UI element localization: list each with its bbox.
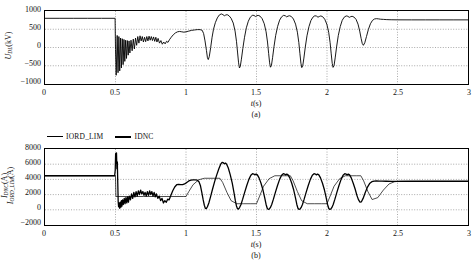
legend-line-idnc <box>115 136 131 138</box>
panel-a-xtick-1: 1 <box>176 88 196 97</box>
panel-a-ytick-1000: 1000 <box>8 5 41 14</box>
panel-a-ytick-m500: −500 <box>8 59 41 68</box>
panel-a-plot-area <box>44 10 469 85</box>
panel-b-ytick-6000: 6000 <box>6 158 41 167</box>
panel-b-xtick-1.5: 1.5 <box>246 229 266 238</box>
legend-entry-idnc: IDNC <box>115 132 153 141</box>
panel-a-x-axis-label: t(s) <box>236 99 276 108</box>
panel-b-plot-area <box>44 148 469 226</box>
legend-entry-iord-lim: IORD_LIM <box>47 132 103 141</box>
panel-a-plot-svg <box>45 11 468 84</box>
panel-a-xtick-0.5: 0.5 <box>105 88 125 97</box>
panel-a: UDL(kV) 1000 500 0 −500 −1000 0 0.5 1 1.… <box>0 0 476 125</box>
panel-a-xtick-1.5: 1.5 <box>246 88 266 97</box>
panel-b-ytick-8000: 8000 <box>6 143 41 152</box>
panel-a-ytick-0: 0 <box>8 41 41 50</box>
figure-root: UDL(kV) 1000 500 0 −500 −1000 0 0.5 1 1.… <box>0 0 476 274</box>
panel-a-xtick-2: 2 <box>317 88 337 97</box>
panel-a-caption: (a) <box>236 110 276 119</box>
panel-a-ytick-500: 500 <box>8 23 41 32</box>
legend-label-iord-lim: IORD_LIM <box>66 132 103 141</box>
panel-a-ytick-m1000: −1000 <box>8 77 41 86</box>
panel-b-xtick-1: 1 <box>176 229 196 238</box>
panel-b-x-axis-label: t(s) <box>236 240 276 249</box>
panel-b-xtick-0: 0 <box>34 229 54 238</box>
panel-b-ytick-0: 0 <box>6 203 41 212</box>
panel-a-xtick-2.5: 2.5 <box>388 88 408 97</box>
panel-b-ytick-4000: 4000 <box>6 173 41 182</box>
panel-b-xtick-3: 3 <box>459 229 476 238</box>
panel-b-xtick-2: 2 <box>317 229 337 238</box>
panel-b-caption: (b) <box>236 251 276 260</box>
panel-b-ytick-2000: 2000 <box>6 188 41 197</box>
panel-b-x-unit: (s) <box>253 240 261 249</box>
panel-b-plot-svg <box>45 149 468 225</box>
panel-b: IORD_LIM IDNC IDNC(A) IORD_LIM(A) 8000 6… <box>0 132 476 274</box>
panel-b-xtick-2.5: 2.5 <box>388 229 408 238</box>
panel-a-xtick-0: 0 <box>34 88 54 97</box>
panel-a-x-unit: (s) <box>253 99 261 108</box>
legend-label-idnc: IDNC <box>134 132 153 141</box>
panel-b-xtick-0.5: 0.5 <box>105 229 125 238</box>
panel-b-ytick-m2000: −2000 <box>6 218 41 227</box>
legend-line-iord-lim <box>47 136 63 137</box>
panel-a-xtick-3: 3 <box>459 88 476 97</box>
panel-b-legend: IORD_LIM IDNC <box>47 132 154 141</box>
